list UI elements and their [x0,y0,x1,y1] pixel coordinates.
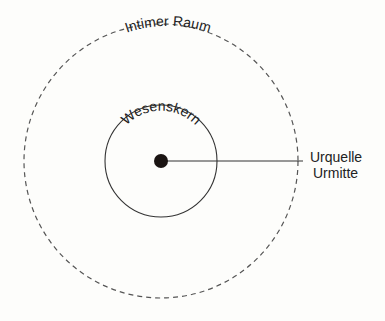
center-dot [154,154,168,168]
diagram-canvas: Intimer Raum Wesenskern Urquelle Urmitte [0,0,385,321]
outer-circle-label: Intimer Raum [123,13,213,36]
callout-line2: Urmitte [313,165,358,181]
concentric-circles-diagram: Intimer Raum Wesenskern Urquelle Urmitte [0,0,385,321]
callout-line1: Urquelle [310,149,362,165]
inner-circle-label: Wesenskern [118,98,205,128]
